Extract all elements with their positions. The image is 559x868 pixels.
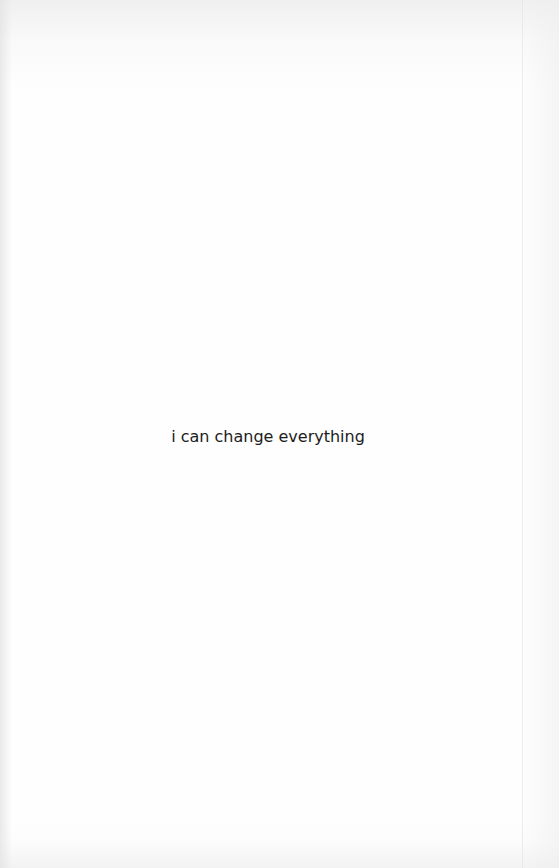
page-text: i can change everything bbox=[0, 427, 536, 446]
document-page: i can change everything bbox=[0, 0, 559, 868]
paper-texture-top bbox=[0, 0, 559, 90]
paper-texture-bottom bbox=[0, 818, 559, 868]
